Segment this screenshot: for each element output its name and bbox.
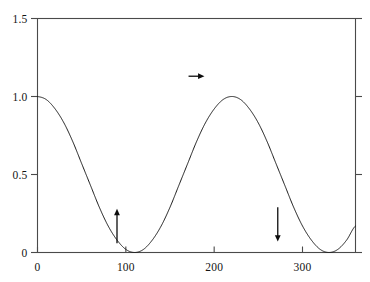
x-tick-label: 100 xyxy=(117,261,135,273)
chart-figure: 00.51.01.5 0100200300 xyxy=(0,0,370,282)
axes-frame xyxy=(38,19,356,253)
y-tick-label: 1.5 xyxy=(0,13,28,25)
plot-canvas xyxy=(0,0,370,282)
data-curve xyxy=(38,97,356,253)
x-tick-label: 0 xyxy=(35,261,41,273)
x-tick-label: 300 xyxy=(294,261,312,273)
tick-marks xyxy=(31,19,362,253)
y-tick-label: 0.5 xyxy=(0,169,28,181)
right-arrow-icon xyxy=(189,73,205,79)
x-tick-label: 200 xyxy=(205,261,223,273)
y-tick-label: 0 xyxy=(0,247,28,259)
annotation-arrows xyxy=(114,73,281,243)
y-tick-label: 1.0 xyxy=(0,91,28,103)
down-arrow-icon xyxy=(275,207,281,241)
